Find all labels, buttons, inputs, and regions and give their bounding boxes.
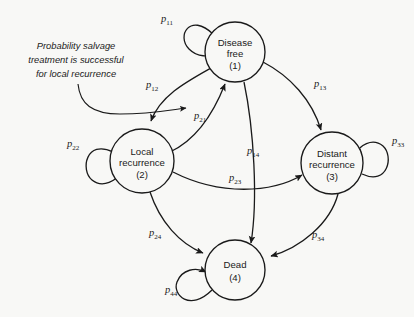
label-p23: p23 [228,172,242,185]
edge-p13 [263,62,321,130]
label-p22-sub: 22 [72,143,80,151]
node-distant-recurrence-line2: recurrence [309,159,355,170]
svg-text:p34: p34 [311,229,325,242]
node-dead-circle[interactable] [205,240,265,300]
node-distant-recurrence[interactable]: Distant recurrence (3) [301,132,363,194]
edge-p34 [271,194,338,256]
edge-p14 [244,82,255,243]
label-p12: p12 [145,79,159,92]
label-p24: p24 [148,227,162,240]
node-local-recurrence-index: (2) [136,169,148,180]
annotation-caption: Probability salvage treatment is success… [28,40,124,79]
label-p11: p11 [160,13,173,26]
state-transition-diagram: Disease free (1) Local recurrence (2) Di… [0,0,414,317]
svg-text:p21: p21 [193,110,207,123]
label-p11-sub: 11 [166,18,173,26]
diagram-canvas: Disease free (1) Local recurrence (2) Di… [0,0,414,317]
label-p14-sub: 14 [252,150,260,158]
edge-p12 [151,68,211,121]
svg-text:p11: p11 [160,13,173,26]
svg-text:p13: p13 [313,78,327,91]
label-p33: p33 [391,135,405,148]
node-distant-recurrence-index: (3) [326,171,338,182]
label-p34-sub: 34 [317,234,325,242]
annotation-pointer [78,84,186,114]
label-p21-sub: 21 [199,115,207,123]
svg-text:p12: p12 [145,79,159,92]
annotation-line-3: for local recurrence [36,68,116,79]
label-p44-sub: 44 [170,289,178,297]
node-dead[interactable]: Dead (4) [205,240,265,300]
node-local-recurrence[interactable]: Local recurrence (2) [110,129,174,193]
node-disease-free-index: (1) [229,60,241,71]
label-p21: p21 [193,110,207,123]
node-dead-index: (4) [229,272,241,283]
annotation-line-1: Probability salvage [37,40,116,51]
node-distant-recurrence-line1: Distant [317,148,347,159]
label-p23-sub: 23 [234,177,242,185]
label-p24-sub: 24 [154,232,162,240]
label-p22: p22 [66,138,80,151]
svg-text:p24: p24 [148,227,162,240]
node-dead-line1: Dead [224,259,247,270]
label-p13-sub: 13 [319,83,327,91]
node-local-recurrence-line1: Local [131,146,154,157]
label-p33-sub: 33 [397,140,405,148]
svg-text:p33: p33 [391,135,405,148]
label-p34: p34 [311,229,325,242]
annotation-line-2: treatment is successful [28,54,124,65]
node-disease-free-line1: Disease [218,37,253,48]
label-p13: p13 [313,78,327,91]
svg-text:p22: p22 [66,138,80,151]
node-disease-free-line2: free [227,48,244,59]
svg-text:p23: p23 [228,172,242,185]
edge-p24 [150,192,203,253]
node-local-recurrence-line2: recurrence [119,157,165,168]
node-disease-free[interactable]: Disease free (1) [205,22,265,82]
label-p12-sub: 12 [151,84,159,92]
